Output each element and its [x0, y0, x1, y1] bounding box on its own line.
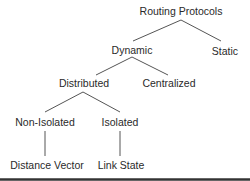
edge-dynamic-distributed	[96, 57, 132, 75]
node-non-isolated: Non-Isolated	[15, 116, 75, 128]
node-link-state: Link State	[98, 159, 145, 171]
edge-distributed-nonisolated	[45, 92, 83, 112]
node-distributed: Distributed	[59, 77, 109, 89]
edge-dynamic-centralized	[132, 57, 168, 75]
node-distance-vector: Distance Vector	[10, 159, 84, 171]
edge-root-dynamic	[133, 20, 181, 41]
node-routing-protocols: Routing Protocols	[140, 5, 223, 17]
node-isolated: Isolated	[102, 116, 139, 128]
tree-nodes: Routing Protocols Dynamic Static Distrib…	[10, 5, 238, 171]
edge-root-static	[181, 20, 221, 41]
node-static: Static	[212, 45, 238, 57]
routing-protocols-tree: Routing Protocols Dynamic Static Distrib…	[0, 0, 250, 181]
edge-distributed-isolated	[83, 92, 120, 112]
node-centralized: Centralized	[142, 77, 195, 89]
node-dynamic: Dynamic	[112, 44, 153, 56]
